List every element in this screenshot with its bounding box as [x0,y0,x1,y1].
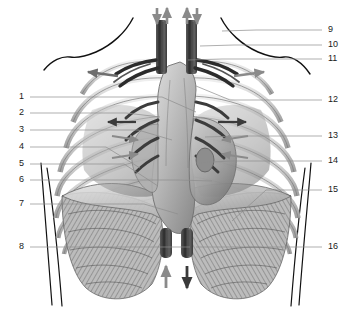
figure-canvas: 12345678 910111213141516 [0,0,353,330]
label-11: 11 [328,54,337,63]
label-5: 5 [19,159,24,168]
leader-line-10 [200,45,322,46]
label-6: 6 [19,175,24,184]
label-1: 1 [19,92,24,101]
label-13: 13 [328,131,338,140]
label-3: 3 [19,125,24,134]
leader-line-9 [222,30,322,31]
label-7: 7 [19,199,24,208]
label-16: 16 [328,242,338,251]
thorax-anatomy-illustration [0,0,353,330]
label-10: 10 [328,40,338,49]
label-12: 12 [328,95,338,104]
label-15: 15 [328,185,338,194]
label-14: 14 [328,156,338,165]
airflow-bottom-arrows [166,266,187,288]
label-2: 2 [19,108,24,117]
label-8: 8 [19,242,24,251]
label-4: 4 [19,142,24,151]
label-9: 9 [328,25,333,34]
